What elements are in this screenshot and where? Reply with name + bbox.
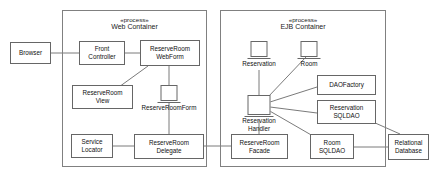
node-reserveroom-delegate[interactable]: ReserveRoom Delegate	[134, 134, 204, 159]
reserveroomform-bean-base	[158, 101, 181, 103]
node-room-line-1: Room	[301, 60, 318, 68]
web-container-stereotype: «process»	[63, 16, 206, 23]
node-room-sqldao-line-2: SQLDAO	[319, 147, 345, 155]
node-relational-database[interactable]: Relational Database	[388, 134, 429, 160]
web-container-name: Web Container	[63, 23, 206, 31]
node-service-locator-line-1: Service	[82, 138, 103, 146]
node-reservation-handler-line-1: Reservation	[242, 117, 276, 125]
node-reservation-sqldao-line-1: Reservation	[330, 104, 364, 112]
node-reserveroomform-label: ReserveRoomForm	[142, 104, 197, 112]
web-container-title: «process» Web Container	[63, 16, 206, 31]
node-reservation-handler-line-2: Handler	[242, 125, 276, 133]
node-reserveroom-webform-line-2: WebForm	[156, 53, 184, 61]
node-reservation-label: Reservation	[242, 60, 276, 68]
reservation-handler-bean-icon	[248, 95, 271, 115]
room-bean-base	[298, 57, 321, 59]
node-reserveroom-facade-line-1: ReserveRoom	[239, 139, 279, 147]
node-service-locator[interactable]: Service Locator	[71, 134, 113, 158]
node-front-controller-line-1: Front	[95, 45, 110, 53]
node-room-label: Room	[301, 60, 318, 68]
node-front-controller-line-2: Controller	[88, 53, 115, 61]
node-reserveroom-view[interactable]: ReserveRoom View	[72, 85, 133, 109]
node-reserveroomform-line-1: ReserveRoomForm	[142, 104, 197, 112]
node-reserveroom-view-line-2: View	[96, 97, 110, 105]
node-reserveroom-facade[interactable]: ReserveRoom Facade	[231, 134, 288, 159]
reserveroomform-bean-icon	[161, 85, 178, 101]
reservation-bean-icon	[251, 41, 268, 57]
node-relational-database-line-1: Relational	[394, 139, 422, 147]
node-reservation-line-1: Reservation	[242, 60, 276, 68]
node-reservation-handler[interactable]: Reservation Handler	[238, 95, 280, 133]
node-browser-line-1: Browser	[19, 49, 42, 57]
node-reserveroom-delegate-line-2: Delegate	[156, 147, 181, 155]
node-reservation-handler-label: Reservation Handler	[242, 117, 276, 133]
node-reserveroomform[interactable]: ReserveRoomForm	[148, 85, 190, 115]
diagram-canvas: «process» Web Container «process» EJB Co…	[0, 0, 439, 179]
reservation-bean-base	[248, 57, 271, 59]
node-reservation-sqldao[interactable]: Reservation SQLDAO	[317, 100, 376, 124]
node-front-controller[interactable]: Front Controller	[79, 41, 125, 65]
node-reserveroom-webform[interactable]: ReserveRoom WebForm	[140, 40, 200, 66]
node-reservation[interactable]: Reservation	[238, 41, 280, 71]
node-room-sqldao-line-1: Room	[324, 139, 341, 147]
node-reserveroom-delegate-line-1: ReserveRoom	[149, 139, 189, 147]
node-reservation-sqldao-line-2: SQLDAO	[333, 112, 359, 120]
node-relational-database-line-2: Database	[395, 147, 422, 155]
node-reserveroom-facade-line-2: Facade	[249, 147, 270, 155]
node-browser[interactable]: Browser	[10, 42, 51, 64]
node-service-locator-line-2: Locator	[81, 146, 102, 154]
ejb-container-name: EJB Container	[221, 23, 385, 31]
node-room-sqldao[interactable]: Room SQLDAO	[310, 134, 354, 159]
node-reserveroom-view-line-1: ReserveRoom	[82, 89, 122, 97]
room-bean-icon	[301, 41, 318, 57]
ejb-container-stereotype: «process»	[221, 16, 385, 23]
node-daofactory-line-1: DAOFactory	[329, 81, 364, 89]
ejb-container-title: «process» EJB Container	[221, 16, 385, 31]
node-reserveroom-webform-line-1: ReserveRoom	[150, 45, 190, 53]
node-room[interactable]: Room	[294, 41, 324, 71]
node-daofactory[interactable]: DAOFactory	[317, 75, 376, 95]
